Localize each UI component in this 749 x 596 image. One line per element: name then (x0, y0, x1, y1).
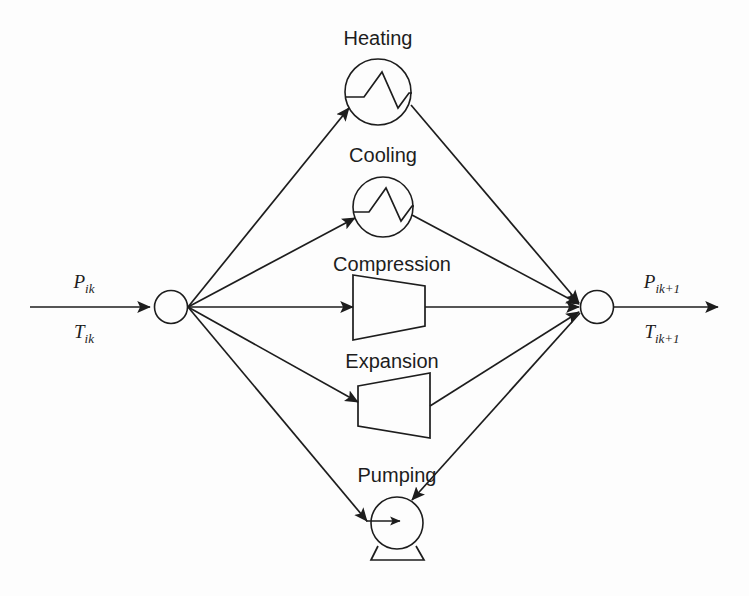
merge-line-pumping (412, 313, 580, 500)
outlet-pressure-label: Pik+1 (643, 271, 680, 296)
outlet-node[interactable] (581, 291, 614, 324)
branch-line-cooling (188, 218, 355, 307)
inlet-stream: Pik Tik (30, 271, 150, 346)
unit-label-expansion: Expansion (345, 350, 438, 372)
outlet-stream: Pik+1 Tik+1 (614, 271, 718, 346)
unit-label-heating: Heating (344, 27, 413, 49)
unit-label-pumping: Pumping (358, 464, 437, 486)
unit-compression[interactable]: Compression (333, 253, 451, 340)
unit-label-cooling: Cooling (349, 144, 417, 166)
branch-line-pumping (188, 307, 367, 521)
cooling-circle (353, 177, 413, 237)
inlet-branch-lines (188, 108, 367, 521)
unit-heating[interactable]: Heating (344, 27, 413, 125)
heating-circle (345, 59, 411, 125)
branch-line-expansion (188, 307, 358, 402)
process-superstructure-diagram: Pik Tik (0, 0, 749, 596)
inlet-node[interactable] (155, 291, 188, 324)
merge-line-expansion (430, 312, 579, 406)
inlet-pressure-label: Pik (73, 271, 95, 296)
inlet-temperature-label: Tik (74, 321, 94, 346)
expansion-trapezoid-icon (358, 373, 430, 438)
compression-trapezoid-icon (353, 275, 425, 340)
branch-line-heating (188, 108, 349, 307)
unit-label-compression: Compression (333, 253, 451, 275)
pumping-circle (371, 497, 423, 549)
outlet-temperature-label: Tik+1 (644, 321, 679, 346)
outlet-branch-lines (411, 105, 580, 500)
unit-expansion[interactable]: Expansion (345, 350, 438, 438)
unit-pumping[interactable]: Pumping (358, 464, 437, 560)
diagram-page: Pik Tik (0, 0, 749, 596)
unit-cooling[interactable]: Cooling (349, 144, 417, 237)
